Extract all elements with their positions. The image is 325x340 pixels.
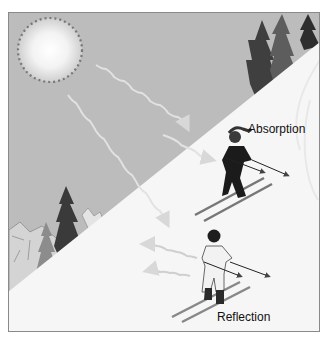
sun-icon — [18, 18, 82, 82]
scene-illustration — [0, 0, 325, 340]
reflection-label: Reflection — [217, 310, 270, 324]
absorption-label: Absorption — [248, 122, 305, 136]
